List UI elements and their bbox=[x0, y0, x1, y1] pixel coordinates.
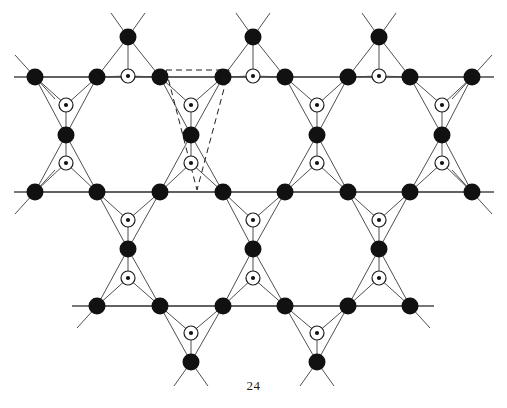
atom-centre-dot bbox=[251, 74, 255, 78]
filled-atom-node bbox=[183, 354, 200, 371]
filled-atom-node bbox=[27, 184, 44, 201]
filled-atom-node bbox=[89, 298, 106, 315]
atom-centre-dot bbox=[189, 161, 193, 165]
atom-centre-dot bbox=[64, 103, 68, 107]
filled-atom-node bbox=[309, 127, 326, 144]
filled-atom-node bbox=[152, 69, 169, 86]
atom-centre-dot bbox=[377, 218, 381, 222]
filled-atom-node bbox=[340, 69, 357, 86]
filled-atom-node bbox=[183, 127, 200, 144]
filled-atom-node bbox=[464, 184, 481, 201]
filled-atom-node bbox=[152, 184, 169, 201]
filled-atom-node bbox=[277, 298, 294, 315]
atom-centre-dot bbox=[126, 276, 130, 280]
atom-centre-dot bbox=[440, 103, 444, 107]
filled-atom-node bbox=[309, 354, 326, 371]
centre-atom-layer bbox=[59, 69, 449, 340]
atom-centre-dot bbox=[126, 74, 130, 78]
unit-cell-edge bbox=[197, 70, 229, 190]
filled-atom-node bbox=[215, 298, 232, 315]
atom-centre-dot bbox=[440, 161, 444, 165]
filled-atom-node bbox=[245, 241, 262, 258]
atom-centre-dot bbox=[126, 218, 130, 222]
atom-centre-dot bbox=[315, 161, 319, 165]
filled-atom-node bbox=[215, 69, 232, 86]
atom-centre-dot bbox=[189, 331, 193, 335]
filled-atom-node bbox=[27, 69, 44, 86]
filled-atom-node bbox=[58, 127, 75, 144]
filled-atom-node bbox=[464, 69, 481, 86]
atom-centre-dot bbox=[189, 103, 193, 107]
filled-atom-node bbox=[371, 241, 388, 258]
filled-atom-node bbox=[277, 69, 294, 86]
filled-atom-node bbox=[277, 184, 294, 201]
atom-centre-dot bbox=[315, 103, 319, 107]
filled-atom-node bbox=[371, 29, 388, 46]
filled-atom-node bbox=[434, 127, 451, 144]
filled-atom-node bbox=[120, 241, 137, 258]
filled-atom-node bbox=[120, 29, 137, 46]
filled-atom-node bbox=[402, 69, 419, 86]
filled-atom-node bbox=[245, 29, 262, 46]
atom-centre-dot bbox=[64, 161, 68, 165]
figure-canvas: 24 bbox=[0, 0, 507, 408]
filled-atom-node bbox=[340, 298, 357, 315]
filled-atom-node bbox=[340, 184, 357, 201]
atom-centre-dot bbox=[377, 74, 381, 78]
filled-atom-node bbox=[402, 298, 419, 315]
filled-atom-node bbox=[152, 298, 169, 315]
filled-atom-node bbox=[89, 69, 106, 86]
filled-atom-node bbox=[89, 184, 106, 201]
atom-centre-dot bbox=[315, 331, 319, 335]
filled-atom-node bbox=[402, 184, 419, 201]
atom-centre-dot bbox=[377, 276, 381, 280]
lattice-diagram bbox=[0, 0, 507, 408]
figure-caption: 24 bbox=[0, 378, 507, 394]
atom-centre-dot bbox=[251, 276, 255, 280]
atom-centre-dot bbox=[251, 218, 255, 222]
filled-atom-node bbox=[215, 184, 232, 201]
